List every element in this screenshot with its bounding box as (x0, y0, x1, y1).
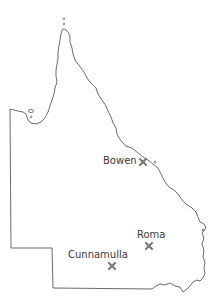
island (63, 18, 65, 20)
town-marker-cunnamulla[interactable] (109, 263, 115, 269)
island (202, 229, 204, 231)
island (30, 116, 32, 118)
town-label-bowen: Bowen (103, 156, 137, 166)
town-marker-roma[interactable] (146, 243, 152, 249)
town-label-cunnamulla: Cunnamulla (68, 250, 128, 260)
island (63, 23, 65, 25)
queensland-map (0, 0, 223, 306)
island (29, 109, 34, 112)
town-marker-bowen[interactable] (140, 159, 146, 165)
town-label-roma: Roma (137, 230, 166, 240)
island (154, 161, 156, 163)
